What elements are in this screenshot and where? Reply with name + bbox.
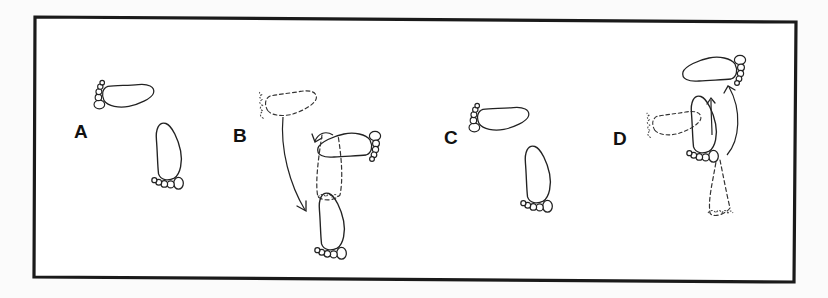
figure-frame [34,17,796,282]
footprint-diagram: A B C D [0,0,828,298]
panel-label-c: C [444,127,458,148]
panel-label-d: D [613,128,627,149]
panel-label-a: A [74,121,88,142]
panel-label-b: B [233,125,247,146]
